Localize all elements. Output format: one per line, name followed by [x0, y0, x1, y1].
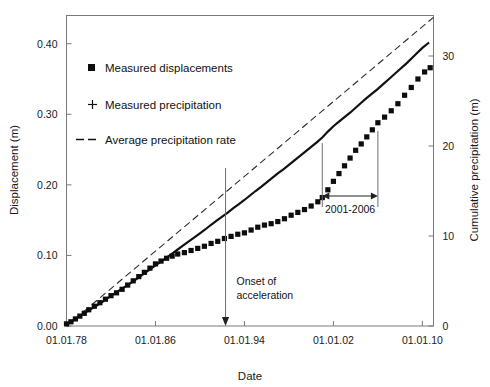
data-point-displacement — [282, 216, 287, 221]
data-point-displacement — [275, 219, 280, 224]
data-point-displacement — [415, 76, 420, 81]
data-point-displacement — [68, 319, 73, 324]
data-point-displacement — [86, 307, 91, 312]
data-point-displacement — [331, 179, 336, 184]
data-point-displacement — [382, 115, 387, 120]
data-point-displacement — [422, 69, 427, 74]
data-point-displacement — [73, 316, 78, 321]
y2-tick-label: 0 — [443, 320, 449, 332]
y-tick-label: 0.30 — [37, 108, 58, 120]
data-point-displacement — [402, 93, 407, 98]
legend-marker-filled-square — [88, 64, 95, 71]
data-point-displacement — [208, 241, 213, 246]
acceleration-period-label: 2001-2006 — [325, 203, 375, 215]
data-point-displacement — [375, 120, 380, 125]
onset-label-line-1: Onset of — [237, 275, 277, 287]
data-point-displacement — [158, 258, 163, 263]
data-point-displacement — [97, 300, 102, 305]
data-point-displacement — [164, 256, 169, 261]
data-point-displacement — [228, 234, 233, 239]
data-point-displacement — [182, 250, 187, 255]
data-point-displacement — [147, 266, 152, 271]
data-point-displacement — [315, 199, 320, 204]
data-point-displacement — [222, 236, 227, 241]
data-point-displacement — [77, 314, 82, 319]
data-point-displacement — [353, 148, 358, 153]
legend-label-measured-precipitation: Measured precipitation — [105, 99, 221, 111]
data-point-displacement — [142, 270, 147, 275]
data-point-displacement — [325, 187, 330, 192]
data-point-displacement — [342, 163, 347, 168]
y-tick-label: 0.00 — [37, 320, 58, 332]
data-point-displacement — [235, 232, 240, 237]
data-point-displacement — [202, 244, 207, 249]
onset-label-line-2: acceleration — [237, 289, 294, 301]
y-axis-left-title: Displacement (m) — [8, 125, 20, 215]
y-axis-right-title: Cumulative precipitation (m) — [468, 98, 480, 241]
data-point-displacement — [409, 85, 414, 90]
data-point-displacement — [295, 210, 300, 215]
data-point-displacement — [136, 274, 141, 279]
x-tick-label: 01.01.94 — [224, 334, 265, 346]
data-point-displacement — [170, 254, 175, 259]
y2-tick-label: 30 — [443, 50, 455, 62]
data-point-displacement — [359, 141, 364, 146]
data-point-displacement — [120, 287, 125, 292]
data-point-displacement — [389, 108, 394, 113]
legend-label-measured-displacements: Measured displacements — [105, 62, 233, 74]
data-point-displacement — [242, 230, 247, 235]
data-point-displacement — [215, 239, 220, 244]
x-tick-label: 01.01.78 — [46, 334, 87, 346]
data-point-displacement — [395, 101, 400, 106]
data-point-displacement — [289, 213, 294, 218]
data-point-displacement — [108, 293, 113, 298]
data-point-displacement — [255, 225, 260, 230]
data-point-displacement — [92, 304, 97, 309]
chart-background — [0, 0, 490, 387]
data-point-displacement — [64, 321, 69, 326]
x-tick-label: 01.01.86 — [135, 334, 176, 346]
data-point-displacement — [370, 127, 375, 132]
x-tick-label: 01.01.02 — [313, 334, 354, 346]
data-point-displacement — [131, 278, 136, 283]
data-point-displacement — [309, 203, 314, 208]
y2-tick-label: 10 — [443, 230, 455, 242]
data-point-displacement — [195, 246, 200, 251]
data-point-displacement — [103, 297, 108, 302]
data-point-displacement — [428, 65, 433, 70]
data-point-displacement — [188, 248, 193, 253]
data-point-displacement — [336, 171, 341, 176]
data-point-displacement — [302, 207, 307, 212]
data-point-displacement — [364, 134, 369, 139]
data-point-displacement — [175, 251, 180, 256]
data-point-displacement — [262, 222, 267, 227]
y2-tick-label: 20 — [443, 140, 455, 152]
data-point-displacement — [153, 261, 158, 266]
data-point-displacement — [269, 221, 274, 226]
data-point-displacement — [82, 311, 87, 316]
data-point-displacement — [347, 155, 352, 160]
chart-figure: 01.01.7801.01.8601.01.9401.01.0201.01.10… — [0, 0, 490, 387]
y-tick-label: 0.10 — [37, 249, 58, 261]
y-tick-label: 0.20 — [37, 179, 58, 191]
y-tick-label: 0.40 — [37, 38, 58, 50]
data-point-displacement — [249, 227, 254, 232]
data-point-displacement — [114, 290, 119, 295]
x-tick-label: 01.01.10 — [402, 334, 443, 346]
x-axis-title: Date — [238, 370, 262, 382]
data-point-displacement — [125, 282, 130, 287]
legend-label-average-precipitation-rate: Average precipitation rate — [105, 134, 236, 146]
chart-canvas: 01.01.7801.01.8601.01.9401.01.0201.01.10… — [0, 0, 490, 387]
